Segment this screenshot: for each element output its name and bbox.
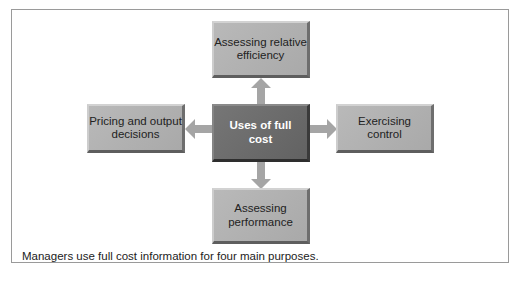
arrow-left-icon [185,119,213,139]
node-top-label: Assessing relative efficiency [214,36,307,63]
node-center: Uses of full cost [212,104,310,162]
node-center-label: Uses of full cost [228,119,293,146]
node-bottom-label: Assessing performance [224,202,297,229]
node-left: Pricing and output decisions [87,104,185,153]
node-top: Assessing relative efficiency [212,21,310,78]
node-right: Exercising control [336,104,434,153]
figure-caption: Managers use full cost information for f… [22,250,319,262]
node-right-label: Exercising control [354,115,415,142]
arrow-right-icon [309,119,337,139]
node-bottom: Assessing performance [212,188,310,244]
node-left-label: Pricing and output decisions [89,115,182,142]
arrow-down-icon [251,162,271,189]
arrow-up-icon [251,78,271,106]
